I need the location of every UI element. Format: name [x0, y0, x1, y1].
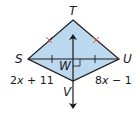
vertex-label-w: W	[59, 59, 72, 73]
side-label-sv: 2x + 11	[10, 74, 54, 87]
diagram-canvas: T S U W V 2x + 11 8x − 1	[0, 0, 139, 114]
vertex-label-u: U	[123, 52, 132, 66]
vertex-label-v: V	[63, 85, 72, 99]
vertex-label-t: T	[69, 4, 78, 18]
kite-diagram: T S U W V 2x + 11 8x − 1	[0, 0, 139, 114]
side-label-uv: 8x − 1	[95, 74, 132, 87]
vertex-label-s: S	[15, 52, 23, 66]
